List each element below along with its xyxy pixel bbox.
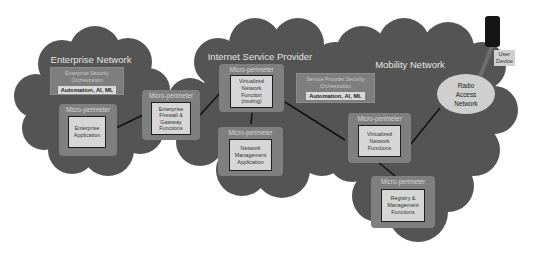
- micro-perimeter-label: Micro-perimeter: [219, 66, 284, 73]
- micro-perimeter-label: Micro-perimeter: [142, 92, 200, 99]
- micro-perimeter-isp-vnf: Micro-perimeter Virtualized Network Func…: [219, 64, 284, 112]
- virtualized-network-function-box: Virtualized Network Function (routing): [230, 75, 273, 108]
- isp-title: Internet Service Provider: [200, 51, 320, 62]
- ran-line: Access: [456, 90, 477, 99]
- fn-line: Network: [242, 85, 262, 92]
- orchestration-label-line1: Service Provider Security: [297, 76, 374, 83]
- orchestration-label-line2: Orchestration: [297, 83, 374, 90]
- radio-access-network: Radio Access Network: [437, 74, 495, 114]
- device-label-line: User: [496, 51, 513, 58]
- micro-perimeter-label: Micro-perimeter: [348, 115, 411, 122]
- micro-perimeter-mobility-vnfs: Micro-perimeter Virtualized Network Func…: [348, 113, 411, 163]
- micro-perimeter-network-management: Micro-perimeter Network Management Appli…: [218, 127, 283, 176]
- micro-perimeter-enterprise-firewall: Micro-perimeter Enterprise Firewall & Ga…: [142, 90, 200, 140]
- enterprise-firewall-gateway-box: Enterprise Firewall & Gateway Functions: [151, 102, 191, 135]
- micro-perimeter-registry: Micro-perimeter Registry & Management Fu…: [371, 176, 435, 228]
- device-label-line: Device: [496, 58, 513, 65]
- fn-line: Application: [237, 159, 263, 166]
- user-device-label: User Device: [494, 50, 515, 66]
- enterprise-network-title: Enterprise Network: [46, 54, 136, 65]
- fn-line: Enterprise: [75, 125, 100, 132]
- fn-line: (routing): [241, 98, 261, 105]
- orchestration-label-line1: Enterprise Security: [51, 70, 123, 77]
- fn-line: Network: [370, 138, 390, 145]
- fn-line: Management: [387, 202, 418, 209]
- enterprise-application-box: Enterprise Application: [68, 116, 106, 148]
- network-diagram: Enterprise Network Enterprise Security O…: [0, 0, 537, 267]
- fn-line: Functions: [159, 125, 182, 132]
- network-management-application-box: Network Management Application: [229, 139, 272, 171]
- mobility-network-title: Mobility Network: [360, 59, 460, 70]
- mobile-phone-icon: [485, 16, 500, 47]
- automation-tag: Automation, AI, ML: [306, 92, 365, 100]
- fn-line: Management: [235, 152, 266, 159]
- fn-line: Network: [241, 145, 261, 152]
- fn-line: Registry &: [391, 195, 416, 202]
- registry-management-functions-box: Registry & Management Functions: [381, 189, 425, 222]
- fn-line: Virtualized: [239, 78, 264, 85]
- micro-perimeter-enterprise-app: Micro-perimeter Enterprise Application: [59, 104, 117, 156]
- fn-line: Virtualized: [367, 131, 392, 138]
- fn-line: Application: [74, 132, 100, 139]
- micro-perimeter-label: Micro-perimeter: [371, 178, 435, 185]
- fn-line: Functions: [368, 145, 391, 152]
- service-provider-security-orchestration: Service Provider Security Orchestration …: [296, 73, 375, 103]
- fn-line: Functions: [391, 209, 414, 216]
- enterprise-security-orchestration: Enterprise Security Orchestration Automa…: [50, 67, 124, 95]
- ran-line: Radio: [458, 81, 475, 90]
- fn-line: Function: [241, 92, 262, 99]
- virtualized-network-functions-box: Virtualized Network Functions: [358, 125, 401, 157]
- micro-perimeter-label: Micro-perimeter: [59, 106, 117, 113]
- orchestration-label-line2: Orchestration: [51, 77, 123, 84]
- micro-perimeter-label: Micro-perimeter: [218, 129, 283, 136]
- ran-line: Network: [454, 99, 477, 108]
- automation-tag: Automation, AI, ML: [58, 86, 117, 94]
